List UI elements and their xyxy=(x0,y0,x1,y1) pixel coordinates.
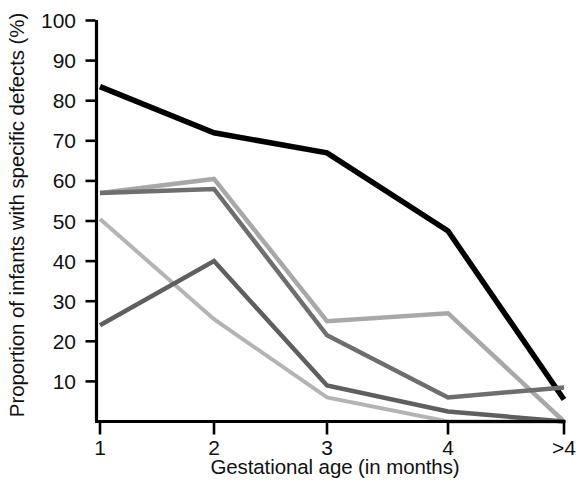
x-tick-label: 1 xyxy=(94,437,106,458)
y-tick-label: 70 xyxy=(18,130,76,151)
y-tick-label: 10 xyxy=(18,371,76,392)
data-line-series-3-dark-gray xyxy=(100,189,564,398)
y-tick-label: 60 xyxy=(18,170,76,191)
x-tick-label: >4 xyxy=(552,437,576,458)
series-group xyxy=(100,87,564,422)
x-tick-label: 3 xyxy=(321,437,333,458)
x-tick-label: 4 xyxy=(442,437,454,458)
y-tick-label: 90 xyxy=(18,50,76,71)
y-tick-label: 50 xyxy=(18,211,76,232)
x-tick-label: 2 xyxy=(208,437,220,458)
axes-group xyxy=(86,20,566,435)
y-tick-label: 80 xyxy=(18,90,76,111)
y-tick-label: 40 xyxy=(18,251,76,272)
y-tick-label: 100 xyxy=(18,10,76,31)
data-line-series-1-black xyxy=(100,87,564,400)
x-axis-title: Gestational age (in months) xyxy=(95,455,575,479)
y-tick-label: 30 xyxy=(18,291,76,312)
y-tick-label: 20 xyxy=(18,331,76,352)
